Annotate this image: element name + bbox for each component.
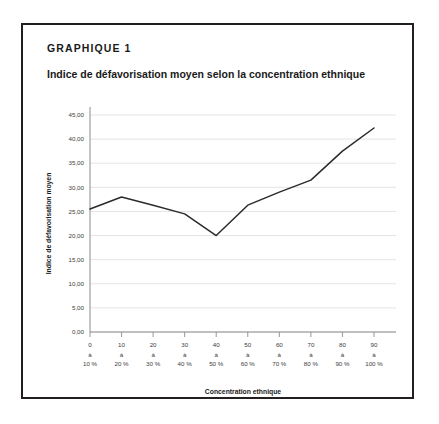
- x-axis-tick-label: 70à80 %: [304, 341, 319, 367]
- y-axis-tick-label: 40,00: [69, 135, 85, 142]
- x-axis-tick-label: 10à20 %: [115, 341, 130, 367]
- y-axis-tick-label: 10,00: [69, 280, 85, 287]
- x-axis-tick-labels: 0à10 %10à20 %20à30 %30à40 %40à50 %50à60 …: [83, 341, 383, 367]
- x-axis-tick-marks: [90, 332, 374, 337]
- y-axis-tick-label: 25,00: [69, 208, 85, 215]
- y-axis-tick-label: 5,00: [72, 304, 85, 311]
- figure-frame: GRAPHIQUE 1 Indice de défavorisation moy…: [21, 23, 414, 399]
- x-axis-tick-label: 0à10 %: [83, 341, 98, 367]
- x-axis-tick-label: 90à100 %: [365, 341, 383, 367]
- y-axis-tick-labels: 0,005,0010,0015,0020,0025,0030,0035,0040…: [69, 111, 85, 335]
- chart-svg: 0,005,0010,0015,0020,0025,0030,0035,0040…: [23, 25, 416, 401]
- y-axis-tick-label: 30,00: [69, 184, 85, 191]
- y-axis-tick-label: 35,00: [69, 159, 85, 166]
- y-axis-tick-label: 0,00: [72, 328, 85, 335]
- x-axis-tick-label: 50à60 %: [241, 341, 256, 367]
- x-axis-tick-label: 60à70 %: [272, 341, 287, 367]
- grid-lines: [90, 115, 396, 332]
- y-axis-tick-label: 45,00: [69, 111, 85, 118]
- y-axis-title: Indice de défavorisation moyen: [45, 173, 53, 275]
- y-axis-tick-label: 15,00: [69, 256, 85, 263]
- y-axis-tick-label: 20,00: [69, 232, 85, 239]
- x-axis-title: Concentration ethnique: [205, 388, 281, 396]
- x-axis-tick-label: 20à30 %: [146, 341, 161, 367]
- x-axis-tick-label: 80à90 %: [335, 341, 350, 367]
- x-axis-tick-label: 30à40 %: [178, 341, 193, 367]
- x-axis-tick-label: 40à50 %: [209, 341, 224, 367]
- line-chart-plot: 0,005,0010,0015,0020,0025,0030,0035,0040…: [23, 25, 416, 401]
- data-series-line: [90, 128, 374, 236]
